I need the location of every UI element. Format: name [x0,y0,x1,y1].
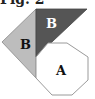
light-triangle-label: B [20,37,31,52]
dark-triangle-label: B [46,16,57,31]
geometry-diagram: B B A [0,0,95,99]
octagon-label: A [55,63,67,78]
